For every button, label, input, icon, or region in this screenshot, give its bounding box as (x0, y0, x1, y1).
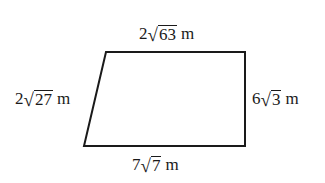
bottom-side-label: 7 √ 7 m (132, 155, 179, 175)
left-side-label: 2 √ 27 m (15, 89, 70, 109)
top-unit: m (181, 24, 194, 44)
bottom-coefficient: 7 (132, 155, 141, 175)
top-side-label: 2 √ 63 m (139, 24, 194, 44)
right-radical: √ 3 (261, 89, 282, 109)
quadrilateral-diagram: 2 √ 63 m 2 √ 27 m 6 √ 3 m 7 √ 7 m (0, 0, 325, 183)
right-unit: m (285, 89, 298, 109)
quadrilateral-outline (84, 52, 245, 146)
left-coefficient: 2 (15, 89, 24, 109)
radical-sign: √ (148, 25, 158, 45)
left-unit: m (57, 89, 70, 109)
top-radicand: 63 (158, 25, 177, 44)
top-coefficient: 2 (139, 24, 148, 44)
top-radical: √ 63 (148, 24, 177, 44)
radical-sign: √ (24, 90, 34, 110)
right-coefficient: 6 (252, 89, 261, 109)
radical-sign: √ (141, 156, 151, 176)
bottom-radicand: 7 (151, 156, 162, 175)
radical-sign: √ (261, 90, 271, 110)
left-radical: √ 27 (24, 89, 53, 109)
left-radicand: 27 (34, 90, 53, 109)
right-side-label: 6 √ 3 m (252, 89, 299, 109)
right-radicand: 3 (271, 90, 282, 109)
bottom-radical: √ 7 (141, 155, 162, 175)
bottom-unit: m (165, 155, 178, 175)
